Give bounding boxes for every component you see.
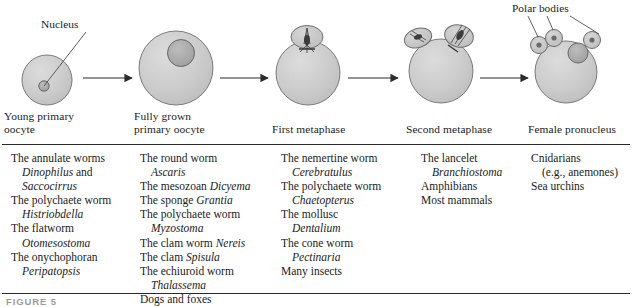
species-scientific-name: Nereis [216,237,246,249]
species-common-name: The sponge [140,194,196,206]
species-line: Histriobdella [11,207,141,221]
oocyte-maturation-figure: Nucleus Polar bodies Young primary oocyt… [0,0,632,307]
figure-caption-partial: FIGURE 5 [6,296,57,307]
species-line: Dentalium [281,221,413,235]
species-column-second-metaphase: The lanceletBranchiostomaAmphibiansMost … [421,151,531,207]
species-line: Myzostoma [140,221,272,235]
cell-young-primary-oocyte [22,32,86,105]
species-line: The sponge Grantia [140,193,272,207]
species-scientific-name: Ascaris [151,166,186,178]
species-line: The lancelet [421,151,531,165]
species-column-young-primary-oocyte: The annulate wormsDinophilus andSaccocir… [11,151,141,278]
cell-fully-grown-primary-oocyte [139,31,213,105]
species-line: The annulate worms [11,151,141,165]
species-scientific-name: Otomesostoma [22,237,90,249]
species-line: The polychaete worm [140,207,272,221]
species-line: The polychaete worm [281,179,413,193]
divider-rule-bottom [2,293,630,294]
species-line: Sea urchins [531,179,631,193]
species-line: The flatworm [11,221,141,235]
species-line: Amphibians [421,179,531,193]
species-common-name: The clam worm [140,237,216,249]
cell-second-metaphase [402,22,476,103]
stage-label-fully-grown-primary-oocyte: Fully grown primary oocyte [134,110,264,135]
species-line: Dogs and foxes [140,292,272,306]
stage-label-young-primary-oocyte: Young primary oocyte [4,110,124,135]
species-scientific-name: Dentalium [292,222,341,234]
species-line: The mollusc [281,207,413,221]
species-scientific-name: Thalassema [151,279,206,291]
species-line: Cerebratulus [281,165,413,179]
polar-bodies-callout-label: Polar bodies [512,2,569,15]
species-column-first-metaphase: The nemertine wormCerebratulusThe polych… [281,151,413,278]
species-line: Thalassema [140,278,272,292]
diagram-stage-area: Nucleus Polar bodies Young primary oocyt… [0,0,632,145]
species-line: Branchiostoma [421,165,531,179]
species-line: Otomesostoma [11,236,141,250]
cell-first-metaphase [276,26,340,106]
species-scientific-name: Dicyema [210,180,251,192]
species-scientific-name: Peripatopsis [22,265,80,277]
species-line: Cnidarians [531,151,631,165]
species-line: The clam worm Nereis [140,236,272,250]
species-line: The polychaete worm [11,193,141,207]
species-scientific-name: Pectinaria [292,251,341,263]
species-line: (e.g., anemones) [531,165,631,179]
species-scientific-name: Grantia [196,194,232,206]
species-scientific-name: Saccocirrus [22,180,77,192]
species-line: The clam Spisula [140,250,272,264]
species-line: Peripatopsis [11,264,141,278]
species-scientific-name: Spisula [186,251,220,263]
species-line: The round worm [140,151,272,165]
species-common-name: The clam [140,251,186,263]
species-scientific-name: Dinophilus [22,166,73,178]
species-line: Saccocirrus [11,179,141,193]
species-line: The mesozoan Dicyema [140,179,272,193]
species-line: Dinophilus and [11,165,141,179]
species-line: Pectinaria [281,250,413,264]
species-line: Chaetopterus [281,193,413,207]
stage-label-female-pronucleus: Female pronucleus [528,123,632,136]
species-common-name: The mesozoan [140,180,210,192]
species-column-female-pronucleus: Cnidarians(e.g., anemones)Sea urchins [531,151,631,193]
species-line: The echiuroid worm [140,264,272,278]
divider-rule-top [2,144,630,145]
stage-label-first-metaphase: First metaphase [272,123,402,136]
species-list-columns: The annulate wormsDinophilus andSaccocir… [0,151,632,291]
species-scientific-name: Chaetopterus [292,194,354,206]
species-scientific-name: Branchiostoma [432,166,502,178]
species-line: Most mammals [421,193,531,207]
stage-label-second-metaphase: Second metaphase [406,123,536,136]
species-scientific-name: Myzostoma [151,222,203,234]
species-scientific-name: Histriobdella [22,208,83,220]
cell-female-pronucleus [528,16,601,103]
species-line: The nemertine worm [281,151,413,165]
species-column-fully-grown-primary-oocyte: The round wormAscarisThe mesozoan Dicyem… [140,151,272,306]
species-scientific-name: Cerebratulus [292,166,352,178]
species-line: Many insects [281,264,413,278]
species-line: Ascaris [140,165,272,179]
species-line-suffix: and [73,166,92,178]
nucleus-callout-label: Nucleus [41,18,78,31]
species-line: The cone worm [281,236,413,250]
species-line: The onychophoran [11,250,141,264]
